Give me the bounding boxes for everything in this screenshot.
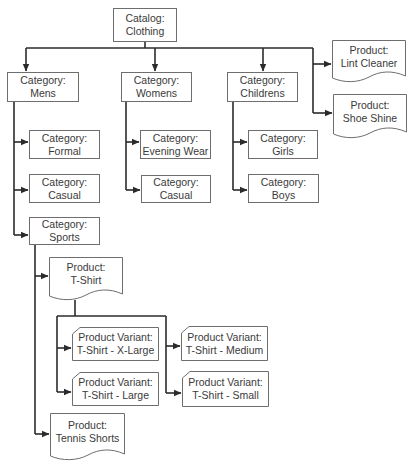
node-product-shoe-shine[interactable]: Product: Shoe Shine	[333, 94, 407, 139]
node-title: Catalog:	[125, 12, 164, 25]
node-title: Product Variant:	[188, 376, 263, 389]
node-category-mens-formal[interactable]: Category: Formal	[29, 130, 100, 159]
node-title: Product:	[66, 261, 105, 274]
node-label: Tennis Shorts	[56, 432, 120, 445]
node-title: Category:	[42, 176, 88, 189]
node-category-childrens-girls[interactable]: Category: Girls	[248, 130, 318, 159]
node-label: Childrens	[240, 87, 284, 100]
node-title: Product:	[349, 44, 388, 57]
node-category-womens-casual[interactable]: Category: Casual	[141, 175, 211, 203]
node-variant-tshirt-small[interactable]: Product Variant: T-Shirt - Small	[182, 371, 269, 407]
node-title: Category:	[260, 132, 306, 145]
node-label: T-Shirt	[71, 274, 102, 287]
node-label: Womens	[136, 87, 177, 100]
node-label: T-Shirt - Small	[192, 389, 259, 402]
node-label: Evening Wear	[143, 145, 209, 158]
node-product-tennis-shorts[interactable]: Product: Tennis Shorts	[50, 413, 125, 461]
node-title: Product Variant:	[187, 331, 262, 344]
node-label: T-Shirt - Medium	[186, 344, 264, 357]
node-title: Category:	[42, 132, 88, 145]
node-title: Category:	[153, 176, 199, 189]
node-title: Product:	[68, 419, 107, 432]
node-label: Lint Cleaner	[341, 57, 398, 70]
node-label: Casual	[160, 189, 193, 202]
node-catalog-clothing[interactable]: Catalog: Clothing	[113, 8, 177, 42]
node-title: Category:	[153, 132, 199, 145]
node-label: Formal	[48, 145, 81, 158]
node-title: Category:	[261, 176, 307, 189]
node-title: Product Variant:	[78, 331, 153, 344]
node-label: T-Shirt - Large	[82, 389, 149, 402]
node-label: T-Shirt - X-Large	[77, 344, 155, 357]
node-variant-tshirt-medium[interactable]: Product Variant: T-Shirt - Medium	[181, 326, 268, 361]
node-category-childrens-boys[interactable]: Category: Boys	[248, 174, 319, 203]
node-label: Mens	[30, 87, 56, 100]
node-category-womens[interactable]: Category: Womens	[121, 72, 192, 102]
node-category-mens[interactable]: Category: Mens	[7, 72, 79, 102]
node-title: Category:	[134, 74, 180, 87]
node-category-mens-casual[interactable]: Category: Casual	[29, 174, 100, 203]
node-title: Category:	[240, 74, 286, 87]
node-title: Category:	[20, 74, 66, 87]
node-category-mens-sports[interactable]: Category: Sports	[29, 217, 100, 245]
node-label: Boys	[272, 189, 295, 202]
node-product-lint-cleaner[interactable]: Product: Lint Cleaner	[332, 40, 406, 83]
node-variant-tshirt-xlarge[interactable]: Product Variant: T-Shirt - X-Large	[72, 327, 159, 361]
node-label: Casual	[48, 189, 81, 202]
node-label: Clothing	[126, 25, 165, 38]
node-label: Shoe Shine	[343, 112, 397, 125]
node-title: Product:	[350, 99, 389, 112]
node-label: Girls	[272, 145, 294, 158]
node-category-womens-evening-wear[interactable]: Category: Evening Wear	[140, 130, 211, 159]
node-product-tshirt[interactable]: Product: T-Shirt	[49, 257, 123, 301]
catalog-hierarchy-diagram: Catalog: Clothing Category: Mens Categor…	[0, 0, 417, 470]
node-title: Product Variant:	[78, 376, 153, 389]
node-label: Sports	[49, 231, 79, 244]
node-title: Category:	[42, 218, 88, 231]
node-variant-tshirt-large[interactable]: Product Variant: T-Shirt - Large	[72, 372, 159, 406]
node-category-childrens[interactable]: Category: Childrens	[227, 72, 298, 102]
